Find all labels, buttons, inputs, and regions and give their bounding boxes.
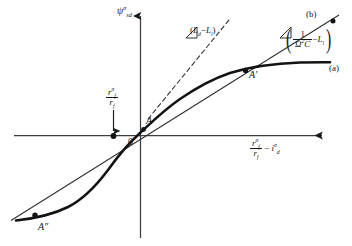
tangent-term2: Ll: [206, 26, 213, 35]
saturation-curve-a: [16, 62, 330, 220]
omega-fraction: 1 Ω2C: [293, 30, 312, 49]
tangent-dashed-line: [148, 20, 229, 119]
axis-group: [14, 16, 322, 238]
x-axis-term2: iσd: [271, 144, 279, 153]
x-axis-label: rσf rf − iσd: [250, 139, 280, 158]
y-axis-subscript: sd: [126, 11, 132, 18]
point-label-A-double-prime: A″: [38, 222, 48, 232]
x-axis-fraction-numerator: rσf: [250, 139, 262, 148]
x-intercept-denominator: rf: [106, 97, 118, 107]
omega-fraction-denominator: Ω2C: [293, 39, 312, 49]
marker-x-intercept: [111, 133, 117, 139]
point-label-A: A: [146, 116, 152, 126]
x-intercept-label: rσf rf: [106, 88, 118, 107]
label-b-leader: [316, 19, 330, 21]
marker-A-double-prime: [32, 213, 37, 218]
tangent-term1: Ld: [193, 26, 201, 35]
figure-canvas: ψσsd rσf rf − iσd rσf rf 0 A A′ A″ (a) (…: [0, 0, 352, 246]
x-intercept-numerator: rσf: [106, 88, 118, 97]
x-axis-fraction-denominator: rf: [250, 148, 262, 158]
x-intercept-fraction: rσf rf: [106, 88, 118, 107]
marker-A-prime: [243, 68, 248, 73]
marker-A: [141, 127, 146, 132]
marker-b-endpoint: [331, 19, 336, 24]
curve-label-a: (a): [329, 64, 339, 73]
slope-annotation-line-b: ( 1 Ω2C −Ll): [284, 26, 333, 53]
curve-label-b: (b): [306, 10, 317, 19]
paren-close-2: ): [326, 26, 331, 53]
slope-annotation-tangent: (Ld−Ll): [190, 26, 215, 35]
y-axis-superscript: σ: [123, 4, 126, 11]
origin-label: 0: [128, 137, 133, 147]
x-axis-minus: −: [264, 144, 269, 153]
y-axis-label: ψσsd: [117, 6, 132, 16]
point-label-A-prime: A′: [249, 70, 257, 80]
paren-close-1: ): [212, 26, 215, 35]
paren-open-2: (: [286, 26, 291, 53]
x-axis-fraction: rσf rf: [250, 139, 262, 158]
line-b-term2: Ll: [317, 35, 324, 44]
